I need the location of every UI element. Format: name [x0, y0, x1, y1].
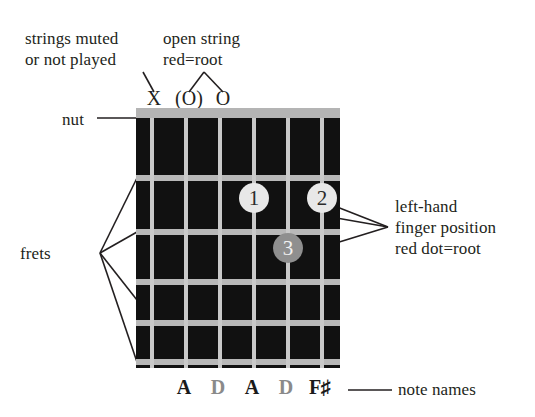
string-2 — [184, 118, 188, 368]
string-3 — [218, 118, 222, 368]
finger-dot-2[interactable]: 2 — [307, 183, 337, 213]
label-finger-position: left-hand finger position red dot=root — [395, 196, 496, 259]
string-6 — [320, 118, 324, 368]
chord-diagram-canvas: strings muted or not played open string … — [0, 0, 535, 417]
note-name-string-5: D — [269, 376, 303, 398]
leader-fret-2 — [100, 232, 137, 253]
string-4 — [252, 118, 256, 368]
leader-fret-1 — [100, 178, 137, 253]
label-strings-muted: strings muted or not played — [25, 28, 118, 70]
nut-bar — [136, 108, 340, 118]
finger-dot-3-number: 3 — [283, 238, 294, 259]
fret-line-3 — [136, 279, 340, 285]
fret-line-1 — [136, 175, 340, 181]
note-name-string-3: D — [201, 376, 235, 398]
finger-dot-2-number: 2 — [317, 188, 328, 209]
label-open-string: open string red=root — [163, 28, 240, 70]
label-note-names: note names — [398, 379, 476, 400]
finger-dot-3[interactable]: 3 — [273, 233, 303, 263]
string-marker-open: O — [213, 88, 233, 108]
finger-dot-1[interactable]: 1 — [239, 183, 269, 213]
note-name-string-2: A — [167, 376, 201, 398]
fret-line-5 — [136, 359, 340, 365]
label-nut: nut — [62, 109, 84, 130]
leader-fret-4 — [100, 253, 137, 362]
string-marker-open-root: (O) — [174, 88, 204, 108]
fretboard: 1 2 3 — [136, 108, 340, 368]
fret-line-2 — [136, 229, 340, 235]
leader-dot-2 — [332, 205, 388, 227]
string-marker-muted: X — [144, 88, 164, 108]
note-name-string-6: F♯ — [303, 376, 337, 398]
leader-fret-3 — [100, 253, 137, 300]
finger-dot-1-number: 1 — [249, 188, 260, 209]
note-name-string-4: A — [235, 376, 269, 398]
string-1 — [150, 118, 154, 368]
fret-line-4 — [136, 320, 340, 326]
label-frets: frets — [20, 243, 51, 264]
